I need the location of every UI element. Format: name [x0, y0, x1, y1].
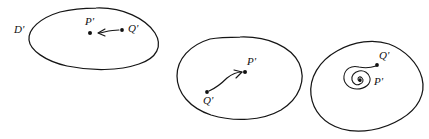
label-p-prime-1: P' [84, 15, 95, 27]
label-q-prime-1: Q' [128, 22, 139, 34]
point-dot-q-prime-3 [375, 63, 379, 67]
trajectory-spiral-3 [344, 66, 376, 89]
trajectory-arrow-2 [209, 72, 242, 91]
panel-3-group: Q' P' [311, 41, 423, 131]
point-dot-q-prime-1 [120, 28, 124, 32]
arrow-head-2 [234, 70, 242, 78]
panel-2-group: P' Q' [177, 37, 302, 120]
label-p-prime-2: P' [246, 55, 257, 67]
label-q-prime-3: Q' [379, 49, 390, 61]
region-outline-2 [177, 37, 302, 120]
label-p-prime-3: P' [373, 75, 384, 87]
point-dot-p-prime-1 [88, 31, 92, 35]
figure-canvas: D' P' Q' P' Q' Q' P' [0, 0, 429, 139]
panel-1-group: D' P' Q' [13, 8, 158, 70]
hand-drawn-figure: D' P' Q' P' Q' Q' P' [0, 0, 429, 139]
label-d-prime: D' [13, 23, 25, 35]
point-dot-p-prime-3 [358, 78, 361, 81]
point-dot-p-prime-2 [243, 70, 247, 74]
label-q-prime-2: Q' [203, 94, 214, 106]
